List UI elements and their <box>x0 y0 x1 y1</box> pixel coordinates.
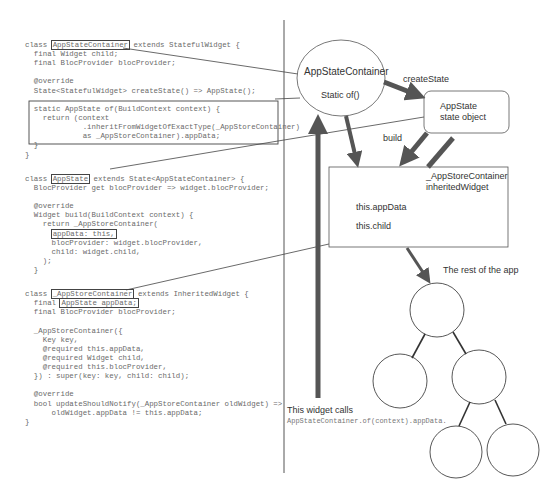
appstatecontainer-subtitle: Static of() <box>321 90 360 100</box>
code-line: @required Widget child, <box>25 354 145 363</box>
build-label: build <box>383 133 402 143</box>
tree-edge <box>459 402 470 426</box>
appstate-subtitle: state object <box>440 112 486 122</box>
tree-node-right-left <box>430 426 482 478</box>
rest-of-app-label: The rest of the app <box>443 265 519 275</box>
connector-appstorecontainer <box>126 244 329 290</box>
code-line: as _AppStoreContainer).appData; <box>25 132 220 141</box>
connector-static-of <box>275 98 300 99</box>
createstate-label: createState <box>403 74 449 84</box>
appstate-highlight: AppState <box>51 174 90 184</box>
code-line: Key key, <box>25 336 78 345</box>
code-line: } <box>25 151 29 160</box>
code-line: child: widget.child, <box>25 248 140 257</box>
code-line: final AppState appData; <box>25 299 138 308</box>
appstatecontainer-highlight: AppStateContainer <box>51 40 130 50</box>
code-line: final Widget child; <box>25 50 118 59</box>
rest-of-app-arrow <box>407 248 428 280</box>
code-line: return _AppStoreContainer( <box>25 220 158 229</box>
code-listing: class AppStateContainer extends Stateful… <box>25 0 34 336</box>
code-line: } <box>25 418 29 427</box>
code-line: ); <box>25 257 52 266</box>
tree-node-right <box>452 350 506 404</box>
appstorecontainer-subtitle: inheritedWidget <box>426 182 489 192</box>
appstatecontainer-title: AppStateContainer <box>304 66 389 77</box>
tree-edge <box>495 400 506 424</box>
code-line: }) : super(key: key, child: child); <box>25 372 189 381</box>
code-line: appData: this, <box>25 230 116 239</box>
appstatecontainer-node <box>297 40 385 116</box>
code-line: Widget build(BuildContext context) { <box>25 211 194 220</box>
code-line: final BlocProvider blocProvider; <box>25 308 176 317</box>
code-line: _AppStoreContainer({ <box>25 327 123 336</box>
code-line: State<StatefulWidget> createState() => A… <box>25 87 256 96</box>
code-line: @required this.appData, <box>25 345 145 354</box>
code-line: static AppState of(BuildContext context)… <box>25 105 220 114</box>
appdata-arrow <box>428 138 453 167</box>
appstate-appdata-highlight: AppState appData; <box>59 298 138 308</box>
createstate-arrow <box>384 82 420 96</box>
child-arrow <box>346 116 357 163</box>
code-line: @override <box>25 390 74 399</box>
code-line: @override <box>25 77 74 86</box>
code-line: .inheritFromWidgetOfExactType(_AppStoreC… <box>25 123 300 132</box>
tree-edge <box>412 334 425 358</box>
tree-node-left <box>373 354 427 408</box>
appdata-field: this.appData <box>356 202 407 212</box>
code-line: @override <box>25 202 74 211</box>
widget-calls-label: This widget calls <box>287 405 353 415</box>
code-line: BlocProvider get blocProvider => widget.… <box>25 184 269 193</box>
child-field: this.child <box>356 221 391 231</box>
code-line: blocProvider: widget.blocProvider, <box>25 239 202 248</box>
code-line: } <box>25 266 38 275</box>
connector-appstate <box>284 117 424 140</box>
code-line: class AppState extends State<AppStateCon… <box>25 175 244 184</box>
code-line: oldWidget.appData != this.appData; <box>25 409 202 418</box>
appstorecontainer-title: _AppStoreContainer <box>426 171 508 181</box>
code-line: return (context <box>25 114 109 123</box>
appdata-this-highlight: appData: this, <box>51 229 117 239</box>
widget-calls-code: AppStateContainer.of(context).appData. <box>287 417 447 425</box>
tree-edge <box>453 332 466 354</box>
appstate-title: AppState <box>440 101 477 111</box>
code-line: final BlocProvider blocProvider; <box>25 59 176 68</box>
code-line: } <box>25 141 38 150</box>
build-arrow <box>403 133 427 162</box>
code-line: bool updateShouldNotify(_AppStoreContain… <box>25 400 282 409</box>
tree-node-root <box>410 283 464 337</box>
code-line: @required this.blocProvider, <box>25 363 167 372</box>
code-line: class AppStateContainer extends Stateful… <box>25 41 240 50</box>
tree-node-right-right <box>487 424 539 476</box>
